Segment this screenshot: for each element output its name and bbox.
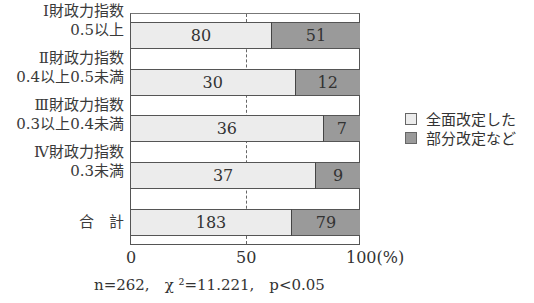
bar-value: 80 [191,26,211,45]
label-line: Ⅰ財政力指数 [43,2,124,21]
legend-item-full: 全面改定した [405,108,516,129]
bar-value: 30 [203,73,223,92]
bar-value: 51 [306,26,326,45]
bar-segment-full: 37 [131,162,315,189]
bar-value: 9 [333,166,343,185]
x-tick-100: 100(%) [346,248,404,267]
bar-value: 79 [316,213,336,232]
bar-row-3: 36 7 [131,115,360,142]
legend-swatch-light [405,113,417,125]
bar-row-4: 37 9 [131,162,360,189]
legend-label: 部分改定など [426,127,516,148]
bar-row-2: 30 12 [131,69,360,96]
legend-item-part: 部分改定など [405,127,516,148]
label-line: 0.5以上 [43,21,124,40]
bar-segment-full: 30 [131,69,295,96]
legend-swatch-dark [405,132,417,144]
plot-area: 80 51 30 12 36 7 37 9 183 79 [130,13,360,245]
bar-segment-full: 80 [131,22,271,49]
legend-label: 全面改定した [426,108,516,129]
bar-row-1: 80 51 [131,22,360,49]
label-line: 0.4以上0.5未満 [16,68,124,87]
x-tick-0: 0 [126,248,136,267]
bar-segment-part: 7 [323,115,360,142]
label-line: Ⅲ財政力指数 [16,96,124,115]
bar-segment-full: 36 [131,115,323,142]
category-label-total: 合 計 [79,213,124,232]
bar-value: 36 [217,119,237,138]
category-label-2: Ⅱ財政力指数 0.4以上0.5未満 [16,49,124,87]
label-line: Ⅱ財政力指数 [16,49,124,68]
label-line: 0.3未満 [34,162,124,181]
label-line: 合 計 [79,213,124,232]
bar-value: 183 [196,213,227,232]
x-tick-50: 50 [236,248,256,267]
category-label-3: Ⅲ財政力指数 0.3以上0.4未満 [16,96,124,134]
bar-segment-part: 12 [295,69,360,96]
category-label-1: Ⅰ財政力指数 0.5以上 [43,2,124,40]
bar-value: 7 [337,119,347,138]
label-line: Ⅳ財政力指数 [34,143,124,162]
bar-segment-part: 9 [315,162,360,189]
bar-row-total: 183 79 [131,209,360,236]
bar-segment-full: 183 [131,209,291,236]
bar-segment-part: 79 [291,209,360,236]
category-label-4: Ⅳ財政力指数 0.3未満 [34,143,124,181]
stats-annotation: n=262, χ ²=11.221, p<0.05 [94,273,325,294]
label-line: 0.3以上0.4未満 [16,115,124,134]
bar-value: 12 [318,73,338,92]
bar-segment-part: 51 [271,22,360,49]
bar-value: 37 [213,166,233,185]
